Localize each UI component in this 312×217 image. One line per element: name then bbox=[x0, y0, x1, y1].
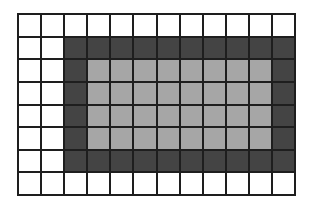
grid-cell-dark bbox=[204, 151, 225, 172]
grid-cell-white bbox=[19, 128, 40, 149]
grid-cell-dark bbox=[65, 128, 86, 149]
grid-cell-white bbox=[181, 15, 202, 36]
grid-cell-dark bbox=[65, 106, 86, 127]
grid-cell-white bbox=[204, 15, 225, 36]
grid-cell-dark bbox=[181, 151, 202, 172]
grid-cell-white bbox=[42, 151, 63, 172]
grid-cell-white bbox=[250, 15, 271, 36]
grid-cell-white bbox=[42, 15, 63, 36]
grid-cell-dark bbox=[65, 60, 86, 81]
grid-cell-dark bbox=[204, 38, 225, 59]
grid-cell-dark bbox=[227, 151, 248, 172]
grid-cell-light bbox=[250, 128, 271, 149]
grid-cell-white bbox=[42, 173, 63, 194]
grid-cell-dark bbox=[158, 38, 179, 59]
grid-cell-light bbox=[111, 106, 132, 127]
grid-cell-white bbox=[65, 15, 86, 36]
grid-cell-white bbox=[111, 173, 132, 194]
grid-cell-light bbox=[204, 106, 225, 127]
grid-cell-light bbox=[181, 106, 202, 127]
grid-cell-dark bbox=[158, 151, 179, 172]
grid-cell-white bbox=[42, 106, 63, 127]
grid-cell-light bbox=[88, 128, 109, 149]
grid-cell-white bbox=[227, 15, 248, 36]
grid-cell-light bbox=[227, 83, 248, 104]
grid-cell-dark bbox=[273, 106, 294, 127]
grid-cell-white bbox=[88, 15, 109, 36]
grid-cell-dark bbox=[250, 38, 271, 59]
grid-cell-light bbox=[227, 128, 248, 149]
grid-cell-white bbox=[134, 15, 155, 36]
grid-cell-white bbox=[19, 60, 40, 81]
grid-cell-light bbox=[111, 128, 132, 149]
grid-cell-white bbox=[19, 38, 40, 59]
grid-cell-dark bbox=[65, 151, 86, 172]
grid-cell-white bbox=[273, 173, 294, 194]
grid-cell-dark bbox=[134, 38, 155, 59]
grid-cell-light bbox=[181, 60, 202, 81]
grid-cell-white bbox=[227, 173, 248, 194]
grid-cell-white bbox=[19, 15, 40, 36]
grid-cell-white bbox=[111, 15, 132, 36]
grid-cell-light bbox=[88, 83, 109, 104]
grid-cell-white bbox=[273, 15, 294, 36]
grid-cell-dark bbox=[134, 151, 155, 172]
grid-cell-light bbox=[250, 83, 271, 104]
grid-cell-light bbox=[250, 106, 271, 127]
grid-cell-dark bbox=[273, 151, 294, 172]
grid-cell-dark bbox=[227, 38, 248, 59]
grid-cell-dark bbox=[273, 60, 294, 81]
grid-cell-light bbox=[227, 60, 248, 81]
grid-cell-dark bbox=[65, 38, 86, 59]
grid-cell-light bbox=[88, 60, 109, 81]
grid-cell-white bbox=[88, 173, 109, 194]
grid-cell-white bbox=[42, 128, 63, 149]
grid-cell-white bbox=[250, 173, 271, 194]
square-grid bbox=[17, 13, 296, 196]
grid-cell-light bbox=[250, 60, 271, 81]
grid-cell-white bbox=[42, 38, 63, 59]
grid-cell-light bbox=[181, 128, 202, 149]
grid-cell-white bbox=[19, 151, 40, 172]
grid-cell-light bbox=[204, 128, 225, 149]
grid-cell-dark bbox=[88, 151, 109, 172]
grid-cell-dark bbox=[88, 38, 109, 59]
grid-cell-dark bbox=[181, 38, 202, 59]
grid-cell-light bbox=[111, 60, 132, 81]
grid-cell-light bbox=[158, 60, 179, 81]
grid-cell-light bbox=[134, 128, 155, 149]
grid-cell-white bbox=[19, 173, 40, 194]
grid-cell-dark bbox=[111, 38, 132, 59]
grid-cell-dark bbox=[65, 83, 86, 104]
grid-cell-dark bbox=[111, 151, 132, 172]
grid-cell-light bbox=[181, 83, 202, 104]
grid-cell-white bbox=[158, 15, 179, 36]
grid-cell-white bbox=[19, 83, 40, 104]
grid-cell-light bbox=[134, 106, 155, 127]
grid-cell-light bbox=[204, 83, 225, 104]
grid-cell-white bbox=[134, 173, 155, 194]
grid-cell-light bbox=[134, 60, 155, 81]
grid-cell-white bbox=[42, 83, 63, 104]
grid-cell-dark bbox=[273, 38, 294, 59]
grid-cell-light bbox=[134, 83, 155, 104]
grid-cell-dark bbox=[273, 128, 294, 149]
grid-cell-dark bbox=[273, 83, 294, 104]
grid-cell-white bbox=[19, 106, 40, 127]
diagram-canvas bbox=[0, 0, 312, 217]
grid-cell-light bbox=[158, 106, 179, 127]
grid-cell-light bbox=[88, 106, 109, 127]
grid-cell-white bbox=[204, 173, 225, 194]
grid-cell-white bbox=[158, 173, 179, 194]
grid-cell-light bbox=[111, 83, 132, 104]
grid-cell-light bbox=[158, 128, 179, 149]
grid-cell-white bbox=[65, 173, 86, 194]
grid-cell-light bbox=[158, 83, 179, 104]
grid-cell-dark bbox=[250, 151, 271, 172]
grid-cell-light bbox=[204, 60, 225, 81]
grid-cell-white bbox=[42, 60, 63, 81]
grid-cell-light bbox=[227, 106, 248, 127]
grid-cell-white bbox=[181, 173, 202, 194]
